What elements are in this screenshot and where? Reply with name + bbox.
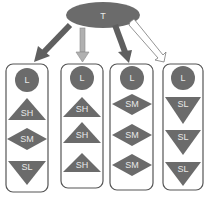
column-2: L SH SH SH <box>61 64 103 188</box>
item-label: SM <box>125 160 139 170</box>
item-label: SL <box>21 162 32 172</box>
column-3-top-label: L <box>129 73 134 83</box>
item-label: SL <box>177 99 188 109</box>
arrow-2 <box>76 28 89 62</box>
item-label: SM <box>125 130 139 140</box>
item-label: SH <box>21 108 34 118</box>
root-label: T <box>100 11 106 21</box>
item-label: SL <box>177 132 188 142</box>
arrow-1 <box>34 25 70 62</box>
item-label: SH <box>76 160 89 170</box>
column-1: L SH SM SL <box>6 64 48 192</box>
column-4: L SL SL SL <box>163 64 203 190</box>
column-1-top-label: L <box>24 75 29 85</box>
item-label: SH <box>76 104 89 114</box>
item-label: SM <box>125 99 139 109</box>
diagram-canvas: T L SH SM SL L SH SH SH <box>0 0 208 198</box>
column-2-top-label: L <box>79 73 84 83</box>
item-label: SL <box>177 164 188 174</box>
item-label: SM <box>20 134 34 144</box>
arrow-3 <box>115 25 132 63</box>
column-3: L SM SM SM <box>110 64 153 190</box>
arrow-4 <box>129 19 166 62</box>
item-label: SH <box>76 130 89 140</box>
column-4-top-label: L <box>180 73 185 83</box>
